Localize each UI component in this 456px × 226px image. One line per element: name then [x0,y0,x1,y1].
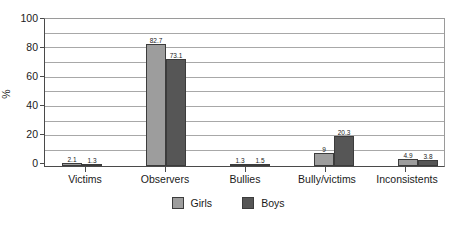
x-category-label-victims: Victims [68,173,102,185]
y-tick-label: 100 [20,13,38,23]
x-category-label-bully-victims: Bully/victims [298,173,356,185]
bar-value-label: 9 [322,146,326,153]
bar-boys[interactable]: 20.3 [334,136,354,166]
bar-girls[interactable]: 4.9 [398,159,418,166]
bar-boys[interactable]: 1.5 [250,164,270,166]
y-tick-label: 20 [26,129,38,139]
legend-item-girls[interactable]: Girls [172,197,213,209]
x-category-label-observers: Observers [141,173,189,185]
y-tick-label: 60 [26,71,38,81]
bar-girls[interactable]: 9 [314,153,334,166]
bar-value-label: 20.3 [338,129,351,136]
y-tick-label: 80 [26,42,38,52]
bar-girls[interactable]: 1.3 [230,164,250,166]
x-category-label-inconsistents: Inconsistents [376,173,437,185]
bar-value-label: 1.3 [235,157,244,164]
x-tick-mark [325,167,326,172]
legend-item-boys[interactable]: Boys [242,197,284,209]
bar-value-label: 82.7 [150,37,163,44]
legend-swatch-boys-icon [242,197,254,209]
y-tick-label: 40 [26,100,38,110]
bar-chart: 100 80 60 40 20 0 % 2.1 [0,0,456,226]
bar-value-label: 1.5 [255,157,264,164]
bar-girls[interactable]: 82.7 [146,44,166,166]
bar-value-label: 3.8 [423,153,432,160]
bar-value-label: 2.1 [67,156,76,163]
x-category-label-bullies: Bullies [230,173,261,185]
legend-swatch-girls-icon [172,197,184,209]
legend: Girls Boys [0,197,456,209]
bar-boys[interactable]: 1.3 [82,164,102,166]
bar-girls[interactable]: 2.1 [62,163,82,166]
x-tick-mark [165,167,166,172]
x-tick-mark [85,167,86,172]
legend-label-girls: Girls [191,197,213,209]
bar-boys[interactable]: 73.1 [166,59,186,166]
bars-layer: 2.1 1.3 82.7 73.1 1.3 1.5 9 [45,19,444,166]
y-tick-label: 0 [32,158,38,168]
bar-boys[interactable]: 3.8 [418,160,438,166]
bar-value-label: 1.3 [87,157,96,164]
bar-value-label: 73.1 [170,52,183,59]
bar-value-label: 4.9 [403,152,412,159]
legend-label-boys: Boys [261,197,284,209]
x-tick-mark [245,167,246,172]
y-axis-title: % [0,79,12,109]
x-tick-mark [405,167,406,172]
